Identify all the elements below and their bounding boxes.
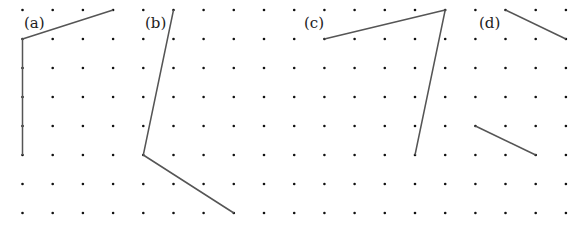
grid-dot	[444, 67, 447, 70]
grid-dot	[353, 154, 356, 157]
grid-dot	[112, 38, 115, 41]
grid-dot	[233, 67, 236, 70]
grid-dot	[51, 154, 54, 157]
grid-dot	[504, 154, 507, 157]
grid-dot	[263, 125, 266, 128]
grid-dot	[444, 154, 447, 157]
grid-dot	[263, 212, 266, 215]
grid-dot	[233, 38, 236, 41]
dot-grid-figure: (a) (b) (c) (d)	[0, 0, 584, 227]
grid-dot	[414, 96, 417, 99]
grid-dot	[534, 212, 537, 215]
grid-dot	[565, 96, 568, 99]
panel-d-segment	[475, 126, 535, 155]
grid-dot	[444, 125, 447, 128]
grid-dot	[51, 125, 54, 128]
grid-dot	[474, 212, 477, 215]
grid-dot	[534, 9, 537, 12]
grid-dot	[353, 67, 356, 70]
grid-dot	[112, 212, 115, 215]
grid-dot	[504, 212, 507, 215]
grid-dot	[293, 96, 296, 99]
grid-dot	[414, 38, 417, 41]
grid-dot	[82, 212, 85, 215]
grid-dot	[504, 183, 507, 186]
panel-label-a: (a)	[24, 14, 45, 32]
grid-dot	[82, 9, 85, 12]
grid-dot	[384, 154, 387, 157]
grid-dot	[534, 183, 537, 186]
panel-labels: (a) (b) (c) (d)	[24, 14, 500, 32]
grid-dot	[112, 67, 115, 70]
grid-dot	[172, 212, 175, 215]
grid-dot	[233, 183, 236, 186]
grid-dot	[384, 9, 387, 12]
grid-dot	[263, 38, 266, 41]
grid-dot	[444, 96, 447, 99]
grid-dot	[82, 67, 85, 70]
grid-dot	[202, 96, 205, 99]
grid-dot	[504, 38, 507, 41]
grid-dot	[353, 9, 356, 12]
grid-dot	[233, 125, 236, 128]
grid-dot	[353, 212, 356, 215]
grid-dot	[384, 38, 387, 41]
grid-dot	[233, 9, 236, 12]
grid-dot	[414, 183, 417, 186]
grid-dot	[293, 183, 296, 186]
grid-dot	[21, 183, 24, 186]
grid-dot	[233, 96, 236, 99]
grid-dot	[172, 125, 175, 128]
grid-dot	[112, 183, 115, 186]
panel-label-c: (c)	[304, 14, 324, 32]
grid-dot	[323, 67, 326, 70]
grid-dot	[202, 67, 205, 70]
grid-dot	[233, 154, 236, 157]
grid-dot	[353, 96, 356, 99]
grid-dot	[444, 212, 447, 215]
grid-dot	[504, 125, 507, 128]
grid-dot	[414, 125, 417, 128]
grid-dot	[142, 96, 145, 99]
grid-dot	[263, 96, 266, 99]
grid-dot	[474, 154, 477, 157]
grid-dot	[565, 67, 568, 70]
grid-dot	[504, 96, 507, 99]
grid-dot	[474, 9, 477, 12]
grid-dot	[202, 125, 205, 128]
grid-dot	[202, 183, 205, 186]
grid-dot	[293, 212, 296, 215]
grid-dot	[565, 125, 568, 128]
grid-dot	[534, 67, 537, 70]
grid-dot	[202, 9, 205, 12]
grid-dot	[21, 9, 24, 12]
grid-dot	[323, 183, 326, 186]
grid-dot	[474, 38, 477, 41]
grid-dot	[353, 183, 356, 186]
grid-dot	[534, 96, 537, 99]
panel-label-d: (d)	[479, 14, 500, 32]
grid-dot	[565, 183, 568, 186]
grid-dot	[414, 212, 417, 215]
grid-dot	[474, 183, 477, 186]
grid-dot	[444, 183, 447, 186]
grid-dot	[202, 212, 205, 215]
grid-dot	[82, 96, 85, 99]
grid-dot	[293, 38, 296, 41]
grid-dot	[202, 154, 205, 157]
grid-dot	[384, 96, 387, 99]
grid-dot	[82, 125, 85, 128]
grid-dot	[82, 38, 85, 41]
grid-dot	[172, 38, 175, 41]
grid-dot	[293, 125, 296, 128]
grid-dot	[323, 212, 326, 215]
grid-dot	[263, 9, 266, 12]
grid-dot	[534, 38, 537, 41]
grid-dot	[293, 154, 296, 157]
panel-d-segment	[506, 10, 566, 39]
grid-dot	[172, 96, 175, 99]
grid-dot	[565, 212, 568, 215]
grid-dot	[504, 67, 507, 70]
grid-dot	[384, 125, 387, 128]
grid-dot	[414, 9, 417, 12]
